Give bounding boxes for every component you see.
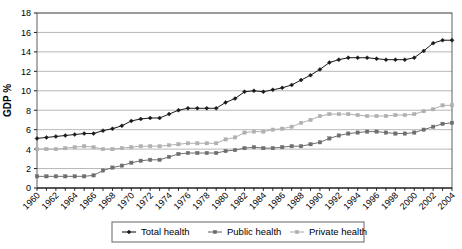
data-point-marker	[403, 58, 407, 62]
x-axis-tick-label: 1964	[58, 190, 79, 211]
data-point-marker	[215, 142, 218, 145]
data-point-marker	[318, 141, 321, 144]
data-point-marker	[92, 174, 95, 177]
data-point-marker	[431, 108, 434, 111]
data-point-marker	[280, 86, 284, 90]
data-point-marker	[148, 144, 151, 147]
data-point-marker	[54, 147, 57, 150]
data-point-marker	[167, 144, 170, 147]
data-point-marker	[196, 142, 199, 145]
data-point-marker	[205, 142, 208, 145]
legend-item-label: Public health	[227, 226, 281, 237]
data-point-marker	[176, 108, 180, 112]
data-point-marker	[393, 58, 397, 62]
data-point-marker	[54, 175, 57, 178]
chart-container: 0246810121416181960196219641966196819701…	[0, 0, 462, 249]
data-point-marker	[384, 58, 388, 62]
data-point-marker	[365, 114, 368, 117]
data-point-marker	[375, 130, 378, 133]
data-point-marker	[403, 113, 406, 116]
data-point-marker	[73, 175, 76, 178]
data-point-marker	[337, 134, 340, 137]
x-axis-tick-label: 1988	[285, 190, 306, 211]
plot-frame	[37, 13, 452, 188]
data-point-marker	[73, 133, 77, 137]
x-axis-labels-group: 1960196219641966196819701972197419761978…	[21, 190, 457, 211]
data-point-marker	[261, 90, 265, 94]
data-point-marker	[281, 145, 284, 148]
data-point-marker	[54, 134, 58, 138]
legend-item-label: Private health	[309, 226, 367, 237]
data-point-marker	[252, 89, 256, 93]
data-point-marker	[328, 112, 331, 115]
data-point-marker	[148, 116, 152, 120]
series-total-health	[35, 38, 454, 140]
data-point-marker	[92, 132, 96, 136]
data-point-marker	[299, 78, 303, 82]
x-axis-tick-label: 1960	[21, 190, 42, 211]
data-point-marker	[422, 109, 425, 112]
data-point-marker	[252, 130, 255, 133]
y-axis-tick-label: 2	[26, 164, 31, 174]
data-point-marker	[441, 122, 444, 125]
data-point-marker	[384, 131, 387, 134]
line-chart: 0246810121416181960196219641966196819701…	[0, 0, 462, 249]
x-axis-tick-label: 1992	[322, 190, 343, 211]
data-point-marker	[205, 106, 209, 110]
data-point-marker	[167, 155, 170, 158]
x-axis-tick-label: 1986	[266, 190, 287, 211]
data-point-marker	[139, 117, 143, 121]
data-point-marker	[82, 175, 85, 178]
data-point-marker	[158, 144, 161, 147]
data-point-marker	[186, 151, 189, 154]
data-point-marker	[299, 144, 302, 147]
data-point-marker	[177, 152, 180, 155]
x-axis-tick-label: 1998	[379, 190, 400, 211]
legend-swatch-marker	[213, 230, 216, 233]
x-axis-tick-label: 1972	[134, 190, 155, 211]
data-point-marker	[186, 142, 189, 145]
data-point-marker	[281, 127, 284, 130]
data-point-marker	[413, 112, 416, 115]
data-point-marker	[224, 138, 227, 141]
data-point-marker	[450, 38, 454, 42]
data-point-marker	[215, 151, 218, 154]
data-point-marker	[309, 143, 312, 146]
data-point-marker	[450, 104, 453, 107]
data-point-marker	[290, 83, 294, 87]
x-axis-tick-label: 1968	[96, 190, 117, 211]
data-point-marker	[224, 149, 227, 152]
data-point-marker	[139, 159, 142, 162]
y-axis-title: GDP %	[2, 84, 13, 117]
y-axis-tick-label: 18	[21, 8, 31, 18]
data-point-marker	[413, 131, 416, 134]
x-axis-tick-label: 1980	[209, 190, 230, 211]
data-point-marker	[82, 132, 86, 136]
data-point-marker	[177, 143, 180, 146]
data-point-marker	[101, 147, 104, 150]
data-point-marker	[64, 146, 67, 149]
data-point-marker	[346, 56, 350, 60]
data-point-marker	[356, 131, 359, 134]
data-point-marker	[299, 121, 302, 124]
data-point-marker	[130, 161, 133, 164]
data-point-marker	[35, 175, 38, 178]
data-point-marker	[111, 166, 114, 169]
series-line	[37, 105, 452, 149]
data-point-marker	[139, 144, 142, 147]
data-point-marker	[195, 106, 199, 110]
data-point-marker	[35, 136, 39, 140]
data-point-marker	[186, 106, 190, 110]
data-point-marker	[110, 127, 114, 131]
data-point-marker	[375, 57, 379, 61]
data-point-marker	[111, 147, 114, 150]
x-axis-tick-label: 1966	[77, 190, 98, 211]
x-axis-tick-label: 1974	[153, 190, 174, 211]
data-point-marker	[101, 169, 104, 172]
data-point-marker	[262, 146, 265, 149]
chart-legend: Total healthPublic healthPrivate health	[112, 222, 367, 242]
data-point-marker	[290, 144, 293, 147]
data-point-marker	[120, 164, 123, 167]
data-point-marker	[158, 116, 162, 120]
x-axis-tick-label: 2000	[398, 190, 419, 211]
